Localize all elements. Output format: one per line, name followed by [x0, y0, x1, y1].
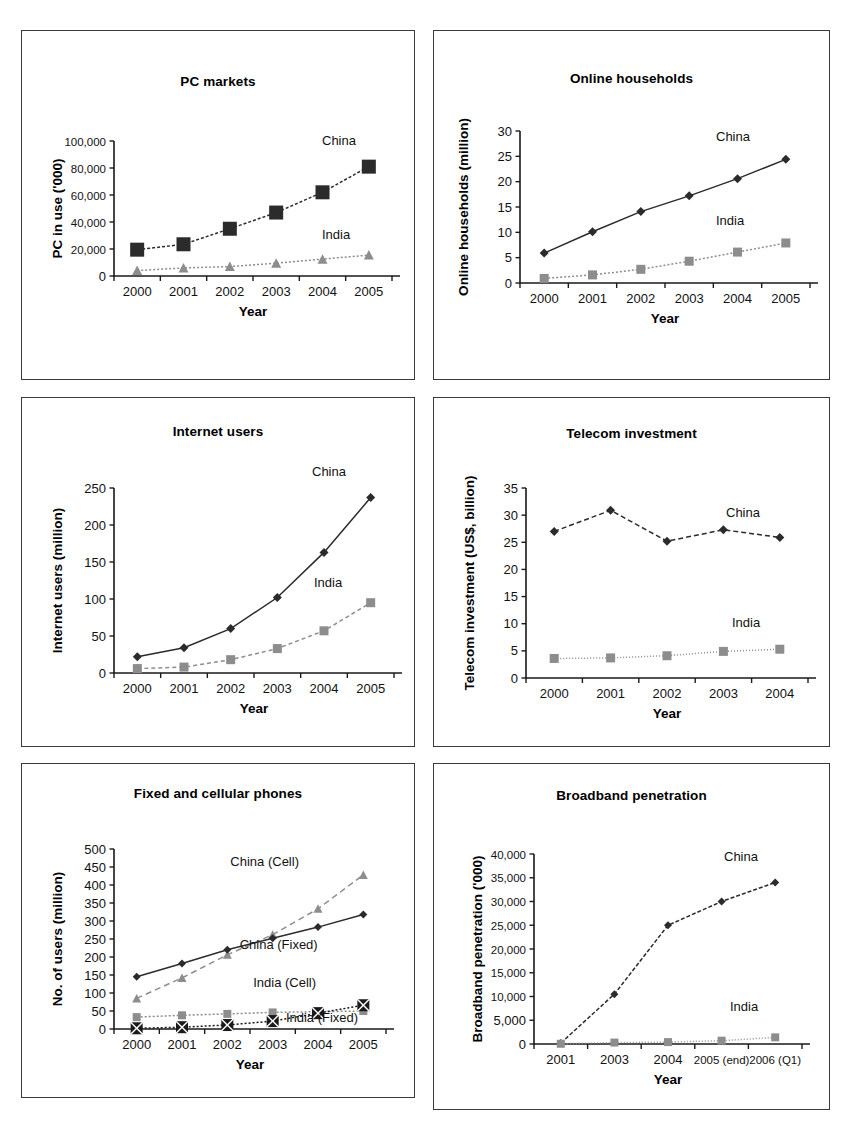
x-tick-label: 2000	[530, 291, 559, 306]
data-point-xsquare	[176, 1021, 188, 1033]
x-tick-label: 2002	[215, 284, 244, 299]
data-point-square	[685, 257, 694, 266]
y-tick-label: 150	[84, 555, 106, 570]
y-tick-label: 250	[84, 481, 106, 496]
data-point-diamond	[733, 174, 742, 183]
data-point-square	[362, 160, 376, 174]
chart-pc-markets: 020,00040,00060,00080,000100,00020002001…	[22, 31, 414, 379]
data-point-diamond	[588, 227, 597, 236]
y-tick-label: 0	[519, 1037, 526, 1052]
y-tick-label: 200	[84, 518, 106, 533]
data-point-diamond	[685, 191, 694, 200]
series-label: India (Cell)	[253, 975, 316, 990]
data-point-triangle	[359, 870, 368, 879]
data-point-square	[636, 265, 645, 274]
y-tick-label: 50	[92, 629, 106, 644]
x-tick-label: 2000	[123, 284, 152, 299]
y-axis-title: Telecom investment (US$, billion)	[462, 475, 477, 690]
y-axis-title: PC in use ('000)	[50, 159, 65, 259]
x-tick-label: 2003	[675, 291, 704, 306]
data-point-diamond	[719, 525, 728, 534]
data-point-square	[366, 598, 375, 607]
panel-pc-markets: PC markets 020,00040,00060,00080,000100,…	[21, 30, 415, 380]
y-axis-title: Internet users (million)	[50, 508, 65, 654]
x-tick-label: 2000	[540, 686, 569, 701]
series-label: China	[724, 849, 759, 864]
series-label: China	[716, 129, 751, 144]
y-tick-label: 450	[84, 860, 106, 875]
data-point-square	[273, 644, 282, 653]
data-point-diamond	[133, 973, 141, 981]
data-point-diamond	[718, 898, 726, 906]
series-label: India (Fixed)	[286, 1010, 358, 1025]
data-point-square	[316, 185, 330, 199]
data-point-diamond	[226, 624, 235, 633]
series-label: India	[314, 575, 343, 590]
data-point-square	[178, 1011, 186, 1019]
y-tick-label: 25,000	[491, 920, 526, 932]
y-tick-label: 15,000	[491, 967, 526, 979]
data-point-diamond	[664, 921, 672, 929]
panel-fixed-cellular-phones: Fixed and cellular phones 05010015020025…	[21, 763, 415, 1098]
series-label: China	[312, 464, 347, 479]
x-tick-label: 2005	[349, 1037, 378, 1052]
data-point-square	[781, 238, 790, 247]
data-point-xsquare	[357, 999, 369, 1011]
series-label: India	[730, 999, 759, 1014]
x-tick-label: 2001	[168, 1037, 197, 1052]
x-axis-title: Year	[236, 1057, 265, 1072]
y-tick-label: 350	[84, 896, 106, 911]
y-tick-label: 10,000	[491, 991, 526, 1003]
data-point-square	[223, 1010, 231, 1018]
data-point-square	[733, 248, 742, 257]
data-point-diamond	[771, 879, 779, 887]
x-tick-label: 2001	[546, 1052, 575, 1067]
y-tick-label: 20	[504, 562, 518, 577]
y-tick-label: 100	[84, 986, 106, 1001]
x-axis-title: Year	[654, 1072, 683, 1087]
x-tick-label: 2003	[258, 1037, 287, 1052]
data-point-square	[606, 653, 615, 662]
x-tick-label: 2006 (Q1)	[749, 1054, 801, 1066]
data-point-square	[664, 1038, 672, 1046]
x-tick-label: 2001	[596, 686, 625, 701]
data-point-triangle	[178, 973, 187, 982]
y-tick-label: 0	[99, 1022, 106, 1037]
y-tick-label: 250	[84, 932, 106, 947]
x-axis-title: Year	[240, 701, 269, 716]
y-tick-label: 80,000	[71, 163, 106, 175]
x-tick-label: 2002	[626, 291, 655, 306]
y-tick-label: 35	[504, 481, 518, 496]
x-tick-label: 2004	[654, 1052, 683, 1067]
series-line	[544, 159, 786, 253]
y-tick-label: 10	[498, 225, 512, 240]
series-label: India	[322, 227, 351, 242]
series-line	[561, 883, 775, 1044]
x-tick-label: 2004	[304, 1037, 333, 1052]
y-tick-label: 300	[84, 914, 106, 929]
y-tick-label: 0	[99, 269, 106, 284]
y-tick-label: 0	[99, 666, 106, 681]
y-tick-label: 25	[504, 535, 518, 550]
figure-grid: PC markets 020,00040,00060,00080,000100,…	[0, 0, 846, 1125]
y-tick-label: 40,000	[491, 849, 526, 861]
y-tick-label: 30,000	[491, 896, 526, 908]
y-tick-label: 50	[92, 1004, 106, 1019]
y-tick-label: 60,000	[71, 190, 106, 202]
data-point-triangle	[132, 994, 141, 1003]
data-point-diamond	[540, 249, 549, 258]
x-tick-label: 2003	[262, 284, 291, 299]
data-point-square	[133, 664, 142, 673]
series-label: India	[716, 213, 745, 228]
data-point-diamond	[606, 506, 615, 515]
data-point-diamond	[359, 911, 367, 919]
x-tick-label: 2001	[578, 291, 607, 306]
y-tick-label: 200	[84, 950, 106, 965]
data-point-triangle	[314, 904, 323, 913]
data-point-square	[775, 645, 784, 654]
data-point-diamond	[180, 643, 189, 652]
data-point-square	[130, 243, 144, 257]
data-point-square	[610, 1039, 618, 1047]
series-line	[544, 243, 786, 278]
y-tick-label: 10	[504, 616, 518, 631]
